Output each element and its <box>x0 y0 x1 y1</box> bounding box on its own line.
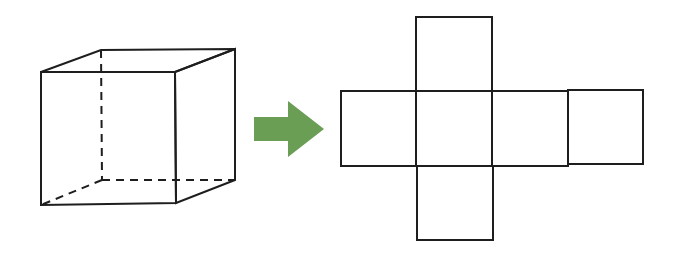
cube-hidden-edge-left-bottom <box>41 180 102 205</box>
right-arrow-icon <box>254 101 324 157</box>
net-face-top <box>416 17 492 91</box>
cube-net-diagram <box>0 0 684 258</box>
cube <box>41 49 235 205</box>
cube-hidden-edge-vertical <box>101 50 102 180</box>
cube-net <box>341 17 643 240</box>
net-face-back <box>568 90 643 164</box>
net-face-bottom <box>417 166 493 240</box>
net-face-left <box>341 91 416 166</box>
cube-front-face <box>41 72 176 205</box>
net-face-front <box>416 91 492 166</box>
net-face-right <box>492 91 568 166</box>
